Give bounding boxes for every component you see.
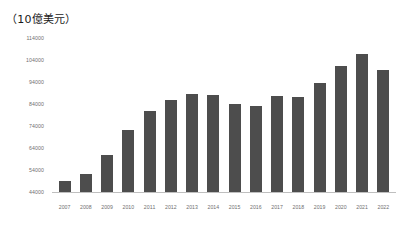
- x-tick-slot: 2013: [182, 195, 203, 209]
- x-axis-line: [52, 192, 396, 193]
- x-axis-tick-label: 2009: [101, 204, 113, 210]
- bar-2015[interactable]: [229, 104, 241, 192]
- x-tick-slot: 2021: [352, 195, 373, 209]
- x-tick-slot: 2011: [139, 195, 160, 209]
- bar-2019[interactable]: [314, 83, 326, 192]
- x-axis-tick-label: 2019: [314, 204, 326, 210]
- bar-2007[interactable]: [59, 181, 71, 192]
- bar-2018[interactable]: [292, 97, 304, 192]
- x-tick-slot: 2020: [330, 195, 351, 209]
- bar-2014[interactable]: [207, 95, 219, 192]
- x-axis-tick-label: 2021: [356, 204, 368, 210]
- x-tick-slot: 2019: [309, 195, 330, 209]
- y-axis-tick-label: 94000: [29, 79, 44, 85]
- bar-slot: [330, 38, 351, 192]
- bar-slot: [352, 38, 373, 192]
- x-axis-tick-label: 2010: [122, 204, 134, 210]
- bar-slot: [182, 38, 203, 192]
- bar-2021[interactable]: [356, 54, 368, 192]
- x-tick-slot: 2015: [224, 195, 245, 209]
- bar-slot: [267, 38, 288, 192]
- x-axis-tick-label: 2012: [165, 204, 177, 210]
- bar-slot: [245, 38, 266, 192]
- y-axis-tick-label: 104000: [26, 57, 44, 63]
- x-axis-tick-label: 2011: [144, 204, 156, 210]
- bar-2013[interactable]: [186, 94, 198, 192]
- x-tick-slot: 2008: [75, 195, 96, 209]
- x-tick-slot: 2017: [267, 195, 288, 209]
- x-axis-tick-label: 2007: [59, 204, 71, 210]
- bar-slot: [203, 38, 224, 192]
- x-tick-slot: 2018: [288, 195, 309, 209]
- bar-2022[interactable]: [377, 70, 389, 192]
- plot-area: [52, 38, 396, 192]
- chart-title: （10億美元）: [6, 10, 76, 26]
- y-axis-tick-label: 44000: [29, 189, 44, 195]
- bar-2011[interactable]: [144, 111, 156, 192]
- bar-2010[interactable]: [122, 130, 134, 192]
- y-axis-tick-label: 114000: [26, 35, 44, 41]
- y-axis-tick-label: 64000: [29, 145, 44, 151]
- x-axis-tick-label: 2016: [250, 204, 262, 210]
- bar-slot: [288, 38, 309, 192]
- x-axis-tick-label: 2020: [335, 204, 347, 210]
- y-axis-tick-label: 54000: [29, 167, 44, 173]
- bar-slot: [97, 38, 118, 192]
- bar-2012[interactable]: [165, 100, 177, 192]
- bar-2017[interactable]: [271, 96, 283, 192]
- y-axis-tick-label: 74000: [29, 123, 44, 129]
- bar-2008[interactable]: [80, 174, 92, 192]
- x-axis-tick-label: 2014: [207, 204, 219, 210]
- bar-2020[interactable]: [335, 66, 347, 193]
- x-axis-tick-label: 2017: [271, 204, 283, 210]
- bar-slot: [373, 38, 394, 192]
- bar-slot: [118, 38, 139, 192]
- bar-slot: [309, 38, 330, 192]
- bar-2016[interactable]: [250, 106, 262, 192]
- bar-slot: [224, 38, 245, 192]
- y-axis: 1140001040009400084000740006400054000440…: [0, 38, 48, 192]
- x-tick-slot: 2016: [245, 195, 266, 209]
- x-axis-tick-label: 2015: [229, 204, 241, 210]
- bar-2009[interactable]: [101, 155, 113, 192]
- x-axis-tick-label: 2022: [377, 204, 389, 210]
- x-tick-slot: 2010: [118, 195, 139, 209]
- bar-slot: [75, 38, 96, 192]
- bar-slot: [139, 38, 160, 192]
- bar-slot: [54, 38, 75, 192]
- y-axis-tick-label: 84000: [29, 101, 44, 107]
- x-tick-slot: 2012: [160, 195, 181, 209]
- x-axis-tick-label: 2018: [292, 204, 304, 210]
- x-tick-slot: 2014: [203, 195, 224, 209]
- x-tick-slot: 2007: [54, 195, 75, 209]
- x-tick-slot: 2009: [97, 195, 118, 209]
- x-axis-tick-label: 2013: [186, 204, 198, 210]
- bar-slot: [160, 38, 181, 192]
- x-axis-tick-label: 2008: [80, 204, 92, 210]
- x-tick-slot: 2022: [373, 195, 394, 209]
- bar-chart: （10億美元） 11400010400094000840007400064000…: [0, 0, 409, 227]
- bars-layer: [52, 38, 396, 192]
- x-axis: 2007200820092010201120122013201420152016…: [52, 195, 396, 209]
